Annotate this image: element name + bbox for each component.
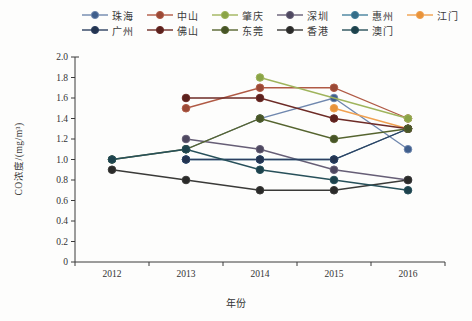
y-tick-label: 1.0 [56,155,68,165]
data-point-东莞 [256,115,264,123]
series-line-佛山 [186,98,408,129]
data-point-澳门 [404,186,412,194]
y-axis-title: CO浓度/(mg/m³) [11,79,25,239]
data-point-澳门 [256,166,264,174]
data-point-澳门 [182,145,190,153]
data-point-佛山 [256,94,264,102]
data-point-中山 [256,84,264,92]
data-point-东莞 [330,135,338,143]
series-line-中山 [186,88,408,119]
data-point-香港 [404,176,412,184]
data-point-广州 [330,156,338,164]
y-tick-label: 0.2 [56,237,68,247]
data-point-深圳 [256,145,264,153]
x-tick-label: 2012 [103,269,122,279]
y-tick-label: 1.8 [56,73,68,83]
data-point-香港 [108,166,116,174]
data-point-佛山 [182,94,190,102]
data-point-广州 [256,156,264,164]
x-tick-label: 2013 [177,269,196,279]
data-point-深圳 [330,166,338,174]
data-point-香港 [330,186,338,194]
data-point-广州 [182,156,190,164]
data-point-中山 [330,84,338,92]
data-point-深圳 [182,135,190,143]
data-point-佛山 [330,115,338,123]
data-point-肇庆 [256,74,264,82]
y-tick-label: 0.8 [56,175,68,185]
y-tick-label: 1.4 [56,114,68,124]
y-tick-label: 1.2 [56,134,68,144]
data-point-东莞 [404,125,412,133]
y-tick-label: 1.6 [56,93,68,103]
data-point-香港 [256,186,264,194]
x-tick-label: 2014 [251,269,270,279]
data-point-中山 [182,104,190,112]
x-tick-label: 2016 [399,269,418,279]
data-point-澳门 [108,156,116,164]
data-point-珠海 [404,145,412,153]
x-tick-label: 2015 [325,269,344,279]
line-chart: 00.20.40.60.81.01.21.41.61.82.0201220132… [0,0,472,321]
data-point-肇庆 [404,115,412,123]
y-tick-label: 2.0 [56,52,68,62]
data-point-江门 [330,104,338,112]
data-point-澳门 [330,176,338,184]
data-point-香港 [182,176,190,184]
y-tick-label: 0.6 [56,196,68,206]
y-tick-label: 0 [63,257,68,267]
x-axis-title: 年份 [0,295,472,310]
chart-figure: 珠海中山肇庆深圳惠州江门广州佛山东莞香港澳门 00.20.40.60.81.01… [0,0,472,321]
y-tick-label: 0.4 [56,216,68,226]
series-line-江门 [334,108,408,129]
